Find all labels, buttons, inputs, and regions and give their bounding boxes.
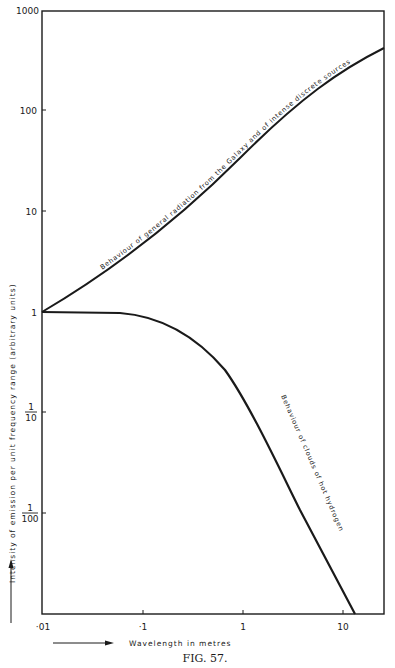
x-tick-label-1: 1 — [240, 622, 246, 632]
x-axis-title: Wavelength in metres — [129, 639, 231, 648]
y-tick-label-one-hundredth: 1 100 — [21, 503, 38, 524]
chart-canvas: 1000 100 10 1 1 10 1 100 ·01 ·1 1 10 Beh… — [0, 0, 395, 668]
y-tick-label-1: 1 — [31, 308, 37, 318]
fraction-denominator: 10 — [25, 413, 37, 423]
x-tick-label-0-01: ·01 — [36, 622, 50, 632]
y-tick-label-1000: 1000 — [16, 6, 39, 16]
lower-curve-label-text: Behaviour of clouds of hot hydrogen — [279, 394, 345, 533]
x-tick-label-0-1: ·1 — [139, 622, 148, 632]
x-axis-arrow-icon — [53, 641, 114, 646]
figure-caption: FIG. 57. — [183, 652, 228, 665]
y-tick-label-10: 10 — [26, 207, 38, 217]
fraction-numerator: 1 — [27, 503, 33, 513]
fraction-denominator: 100 — [21, 514, 38, 524]
fraction-numerator: 1 — [28, 402, 34, 412]
y-axis-title: Intensity of emission per unit frequency… — [8, 283, 17, 583]
lower-curve-label: Behaviour of clouds of hot hydrogen — [279, 394, 345, 533]
y-tick-label-one-tenth: 1 10 — [25, 402, 37, 423]
upper-curve-label-text: Behaviour of general radiation from the … — [99, 58, 352, 272]
upper-curve-label: Behaviour of general radiation from the … — [99, 58, 352, 272]
y-tick-label-100: 100 — [20, 106, 37, 116]
x-tick-label-10: 10 — [337, 622, 349, 632]
